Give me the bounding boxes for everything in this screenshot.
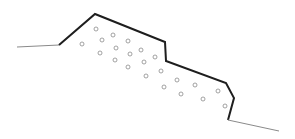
slope-profile-line [59,14,234,120]
particle-circle [159,69,163,73]
ground-line-right [228,120,279,131]
ground-line-left [17,45,59,47]
particle-circle [223,104,227,108]
slope-diagram [0,0,295,139]
particle-circle [80,42,84,46]
particle-circle [162,85,166,89]
diagram-canvas [0,0,295,139]
particle-circle [100,38,104,42]
particle-circle [144,74,148,78]
particle-circle [193,83,197,87]
particle-circle [142,60,146,64]
particle-circle [111,33,115,37]
particle-circles [80,27,227,108]
particle-circle [216,89,220,93]
particle-circle [126,65,130,69]
particle-circle [126,39,130,43]
particle-circle [114,46,118,50]
particle-circle [98,51,102,55]
particle-circle [179,92,183,96]
particle-circle [139,48,143,52]
particle-circle [153,55,157,59]
particle-circle [201,97,205,101]
particle-circle [94,27,98,31]
particle-circle [128,52,132,56]
particle-circle [175,78,179,82]
particle-circle [113,58,117,62]
